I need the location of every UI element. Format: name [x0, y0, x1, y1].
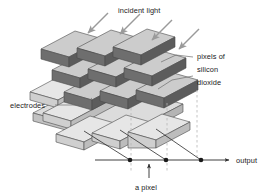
light-arrow-4: [179, 29, 199, 49]
incident-light-label: incident light: [118, 6, 161, 15]
electrodes-label: electrodes: [10, 101, 45, 110]
pixels-of-label: pixels of: [197, 52, 226, 61]
diagram-canvas: incident light pixels of silicon dioxide…: [0, 0, 280, 196]
light-arrow-1: [88, 13, 108, 33]
output-node: [199, 158, 204, 163]
output-label: output: [236, 156, 257, 165]
silicon-label: silicon: [197, 65, 218, 74]
output-node: [164, 158, 169, 163]
a-pixel-label: a pixel: [135, 183, 157, 192]
output-node: [128, 158, 133, 163]
light-arrow-2: [120, 14, 140, 34]
output-line: [95, 158, 229, 163]
ccd-sensor-diagram: incident light pixels of silicon dioxide…: [0, 0, 280, 196]
dioxide-label: dioxide: [197, 78, 221, 87]
